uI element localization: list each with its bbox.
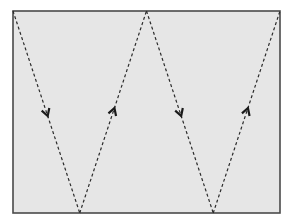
zigzag-diagram <box>0 0 294 224</box>
frame <box>13 11 280 213</box>
